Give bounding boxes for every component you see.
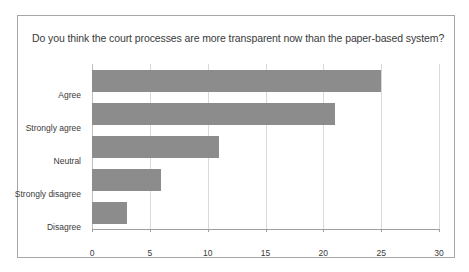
bar-strongly-disagree[interactable] [92, 169, 161, 191]
bar-neutral[interactable] [92, 136, 219, 158]
y-label-strongly-disagree: Strongly disagree [0, 189, 81, 199]
tick-mark-0 [92, 229, 93, 232]
bar-row [92, 196, 439, 229]
x-tick-label-15: 15 [251, 248, 281, 258]
x-axis-tick-labels: 051015202530 [18, 248, 456, 262]
bar-row [92, 163, 439, 196]
tick-mark-10 [208, 229, 209, 232]
tick-mark-15 [266, 229, 267, 232]
x-tick-label-0: 0 [77, 248, 107, 258]
gridline-30 [439, 64, 440, 229]
x-tick-label-25: 25 [366, 248, 396, 258]
bar-row [92, 130, 439, 163]
bar-strongly-agree[interactable] [92, 103, 335, 125]
tick-mark-20 [323, 229, 324, 232]
bar-row [92, 97, 439, 130]
chart-title: Do you think the court processes are mor… [32, 32, 444, 45]
y-label-disagree: Disagree [0, 222, 81, 232]
bar-row [92, 64, 439, 97]
bar-disagree[interactable] [92, 202, 127, 224]
y-label-neutral: Neutral [0, 156, 81, 166]
x-tick-label-5: 5 [135, 248, 165, 258]
y-label-agree: Agree [0, 90, 81, 100]
tick-mark-25 [381, 229, 382, 232]
plot-area [92, 64, 439, 229]
tick-mark-30 [439, 229, 440, 232]
y-axis-category-labels: AgreeStrongly agreeNeutralStrongly disag… [18, 79, 86, 244]
chart-container: Do you think the court processes are mor… [17, 15, 455, 258]
tick-mark-5 [150, 229, 151, 232]
y-label-strongly-agree: Strongly agree [0, 123, 81, 133]
x-tick-label-10: 10 [193, 248, 223, 258]
bar-agree[interactable] [92, 70, 381, 92]
x-tick-label-30: 30 [424, 248, 454, 258]
x-tick-label-20: 20 [308, 248, 338, 258]
